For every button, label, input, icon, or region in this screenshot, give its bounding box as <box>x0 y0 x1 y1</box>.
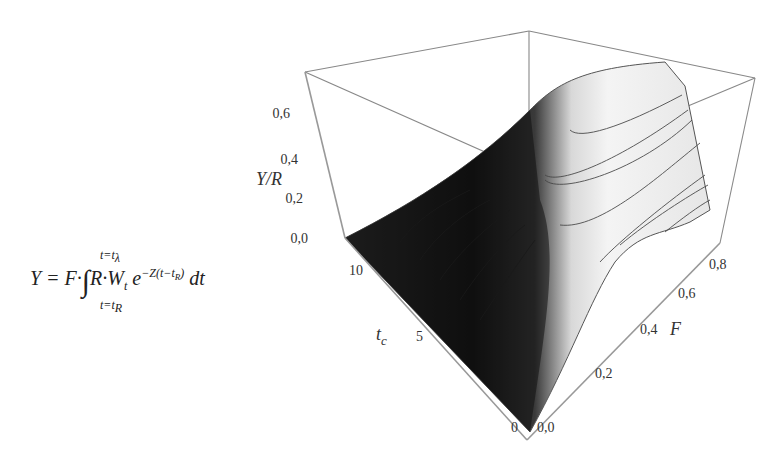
z-axis <box>305 72 345 238</box>
x-axis-label: tc <box>376 324 387 348</box>
y-axis-label: F <box>669 319 682 339</box>
z-axis-label: Y/R <box>256 169 282 189</box>
svg-text:0,6: 0,6 <box>273 106 291 121</box>
svg-text:0,4: 0,4 <box>640 322 658 337</box>
svg-text:0,0: 0,0 <box>291 231 309 246</box>
svg-text:0,0: 0,0 <box>537 420 555 435</box>
svg-text:0,2: 0,2 <box>595 366 613 381</box>
svg-text:0,8: 0,8 <box>709 257 727 272</box>
surface <box>345 62 710 432</box>
svg-text:10: 10 <box>349 263 363 278</box>
svg-text:0: 0 <box>511 420 518 435</box>
svg-text:0,6: 0,6 <box>678 286 696 301</box>
z-axis-ticks: 0,0 0,2 0,4 0,6 Y/R <box>256 106 308 246</box>
svg-text:0,2: 0,2 <box>286 191 304 206</box>
surface-plot-3d: 0,0 0,2 0,4 0,6 Y/R 0 5 10 tc 0,0 0,2 0,… <box>0 0 783 453</box>
svg-text:5: 5 <box>416 329 423 344</box>
svg-text:0,4: 0,4 <box>281 152 299 167</box>
